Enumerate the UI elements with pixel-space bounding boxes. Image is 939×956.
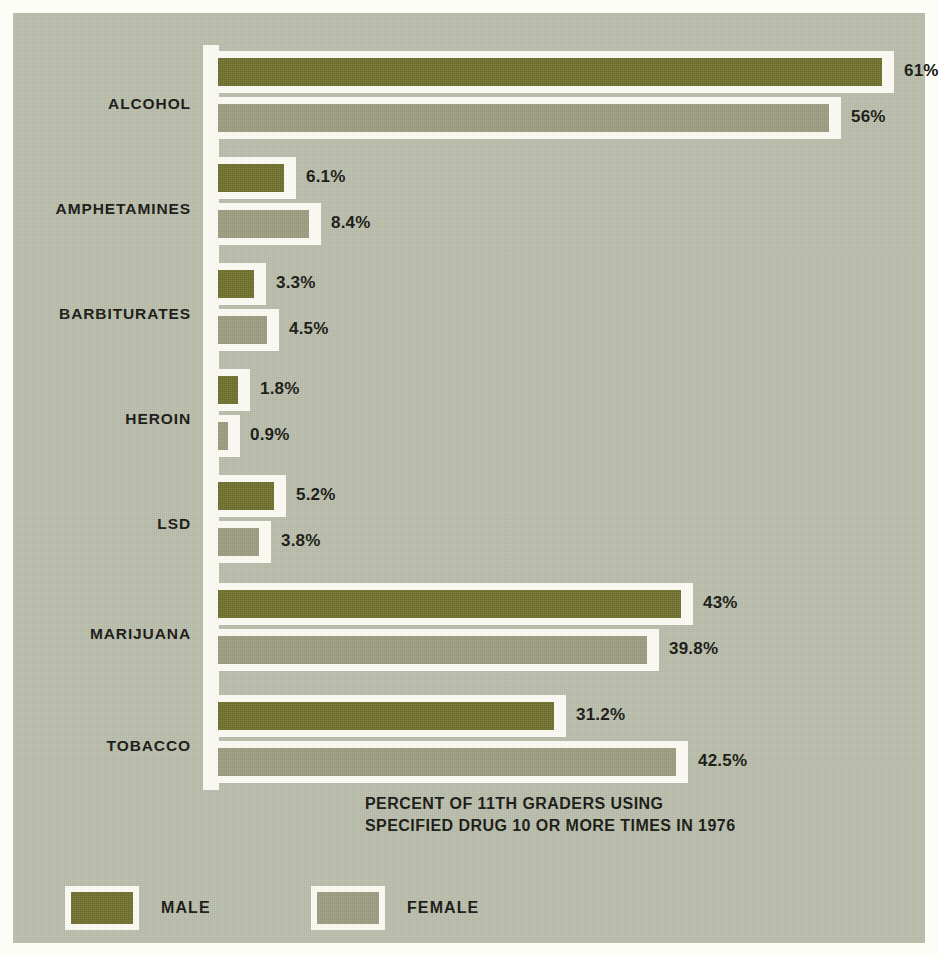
category-axis: ALCOHOL AMPHETAMINES BARBITURATES HEROIN… — [13, 45, 191, 790]
bar-male-alcohol[interactable] — [218, 51, 894, 93]
bar-female-heroin[interactable] — [218, 415, 240, 457]
legend-label-male: MALE — [161, 899, 211, 917]
chart-panel: ALCOHOL AMPHETAMINES BARBITURATES HEROIN… — [13, 13, 925, 943]
legend-item-male[interactable]: MALE — [65, 886, 211, 930]
bar-female-alcohol[interactable] — [218, 97, 841, 139]
category-label-lsd: LSD — [157, 515, 191, 533]
value-axis-spine — [203, 45, 219, 790]
bar-male-heroin[interactable] — [218, 369, 250, 411]
bar-value-label: 3.3% — [276, 273, 316, 293]
bar-female-marijuana[interactable] — [218, 629, 659, 671]
bar-male-marijuana[interactable] — [218, 583, 693, 625]
bar-value-label: 5.2% — [296, 485, 336, 505]
category-label-barbiturates: BARBITURATES — [59, 305, 191, 323]
bar-male-barbiturates[interactable] — [218, 263, 266, 305]
bar-value-label: 4.5% — [289, 319, 329, 339]
bar-value-label: 61% — [904, 61, 939, 81]
bar-value-label: 8.4% — [331, 213, 371, 233]
caption-line-1: PERCENT OF 11TH GRADERS USING — [365, 793, 885, 815]
bar-value-label: 42.5% — [698, 751, 747, 771]
bar-value-label: 6.1% — [306, 167, 346, 187]
bar-value-label: 43% — [703, 593, 738, 613]
legend-item-female[interactable]: FEMALE — [311, 886, 479, 930]
bar-female-barbiturates[interactable] — [218, 309, 279, 351]
bar-value-label: 39.8% — [669, 639, 718, 659]
bar-female-amphetamines[interactable] — [218, 203, 321, 245]
category-label-tobacco: TOBACCO — [107, 737, 191, 755]
category-label-heroin: HEROIN — [125, 410, 191, 428]
legend-swatch-male — [65, 886, 139, 930]
bar-male-lsd[interactable] — [218, 475, 286, 517]
plot-area: 61% 56% 6.1% 8.4% — [203, 45, 903, 790]
bar-value-label: 0.9% — [250, 425, 290, 445]
caption-line-2: SPECIFIED DRUG 10 OR MORE TIMES IN 1976 — [365, 815, 885, 837]
legend-swatch-female — [311, 886, 385, 930]
legend-label-female: FEMALE — [407, 899, 479, 917]
chart-caption: PERCENT OF 11TH GRADERS USING SPECIFIED … — [365, 793, 885, 837]
category-label-amphetamines: AMPHETAMINES — [56, 200, 191, 218]
bar-male-tobacco[interactable] — [218, 695, 566, 737]
bar-value-label: 31.2% — [576, 705, 625, 725]
bar-value-label: 1.8% — [260, 379, 300, 399]
category-label-alcohol: ALCOHOL — [108, 95, 191, 113]
bar-female-lsd[interactable] — [218, 521, 271, 563]
bar-male-amphetamines[interactable] — [218, 157, 296, 199]
bar-value-label: 3.8% — [281, 531, 321, 551]
bar-value-label: 56% — [851, 107, 886, 127]
category-label-marijuana: MARIJUANA — [90, 625, 191, 643]
bar-female-tobacco[interactable] — [218, 741, 688, 783]
